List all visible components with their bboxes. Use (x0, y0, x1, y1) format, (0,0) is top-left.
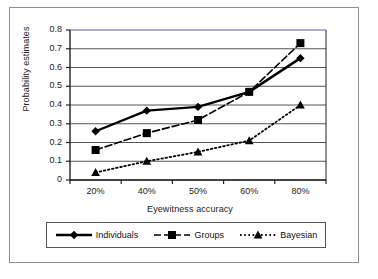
marker-square (92, 146, 100, 154)
series-line (96, 43, 301, 150)
figure-frame: Probability estimates Eyewitness accurac… (9, 7, 359, 263)
series-line (96, 105, 301, 173)
chart-legend: IndividualsGroupsBayesian (46, 222, 326, 248)
series-bayesian (91, 101, 305, 176)
legend-label: Individuals (96, 230, 139, 240)
legend-key-triangle-icon (239, 229, 277, 241)
legend-item-groups[interactable]: Groups (153, 229, 224, 241)
marker-diamond (194, 103, 202, 111)
legend-key-diamond-icon (55, 229, 93, 241)
marker-square (143, 129, 151, 137)
legend-key-square-icon (153, 229, 191, 241)
legend-item-individuals[interactable]: Individuals (55, 229, 139, 241)
series-groups (92, 39, 305, 154)
marker-triangle (194, 147, 203, 155)
marker-square (168, 231, 176, 239)
marker-square (245, 88, 253, 96)
marker-triangle (91, 168, 100, 176)
legend-label: Groups (194, 230, 224, 240)
marker-square (296, 39, 304, 47)
marker-diamond (91, 127, 99, 135)
marker-diamond (143, 106, 151, 114)
marker-diamond (69, 231, 77, 239)
marker-square (194, 116, 202, 124)
legend-label: Bayesian (280, 230, 317, 240)
legend-item-bayesian[interactable]: Bayesian (239, 229, 317, 241)
